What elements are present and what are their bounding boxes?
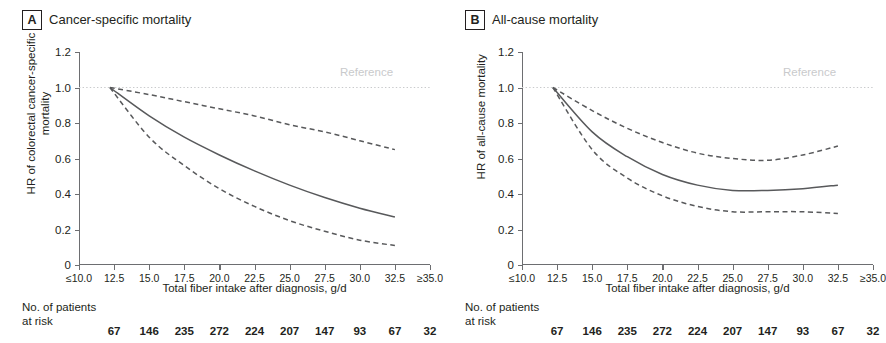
at-risk-value: 93 xyxy=(353,325,366,337)
at-risk-value: 93 xyxy=(796,325,809,337)
y-tick-label: 1.2 xyxy=(498,46,514,58)
x-tick-mark xyxy=(255,265,256,270)
at-risk-value: 147 xyxy=(758,325,777,337)
panel-a-curves xyxy=(79,52,430,265)
y-tick-label: 0.4 xyxy=(55,188,71,200)
x-tick-mark xyxy=(325,265,326,270)
at-risk-value: 67 xyxy=(108,325,121,337)
panel-b-reference-label: Reference xyxy=(783,66,836,78)
x-tick-mark xyxy=(184,265,185,270)
panel-b-risk-values: 67146235272224207147936732 xyxy=(522,325,873,341)
confidence-interval-curve xyxy=(553,88,838,214)
at-risk-value: 32 xyxy=(867,325,880,337)
x-tick-mark xyxy=(557,265,558,270)
x-tick-mark xyxy=(114,265,115,270)
panel-a-plot-area: 00.20.40.60.81.01.2 ≤10.012.515.017.520.… xyxy=(79,52,430,265)
panel-a-y-axis-title: HR of colorectal cancer-specific mortali… xyxy=(25,14,52,214)
y-tick-label: 0.6 xyxy=(55,153,71,165)
panel-a-reference-label: Reference xyxy=(340,66,393,78)
at-risk-value: 67 xyxy=(388,325,401,337)
at-risk-value: 67 xyxy=(551,325,564,337)
x-tick-mark xyxy=(219,265,220,270)
at-risk-value: 146 xyxy=(583,325,602,337)
y-tick-label: 0.2 xyxy=(55,224,71,236)
x-tick-mark xyxy=(803,265,804,270)
y-tick-label: 0.8 xyxy=(498,117,514,129)
hr-curve xyxy=(553,88,838,191)
x-tick-mark xyxy=(662,265,663,270)
panel-a-title: Cancer-specific mortality xyxy=(49,12,191,27)
x-tick-mark xyxy=(627,265,628,270)
panel-a-risk-values: 67146235272224207147936732 xyxy=(79,325,430,341)
x-tick-mark xyxy=(873,265,874,270)
x-tick-mark xyxy=(395,265,396,270)
y-tick-label: 1.0 xyxy=(55,82,71,94)
y-tick-label: 1.2 xyxy=(55,46,71,58)
x-tick-mark xyxy=(360,265,361,270)
panel-a-x-axis-title: Total fiber intake after diagnosis, g/d xyxy=(79,282,430,294)
at-risk-value: 224 xyxy=(688,325,707,337)
at-risk-value: 207 xyxy=(723,325,742,337)
at-risk-value: 67 xyxy=(831,325,844,337)
panel-a: A Cancer-specific mortality HR of colore… xyxy=(0,0,443,343)
y-tick-label: 0 xyxy=(508,259,514,271)
x-tick-mark xyxy=(698,265,699,270)
x-tick-mark xyxy=(838,265,839,270)
panel-b-x-axis-title: Total fiber intake after diagnosis, g/d xyxy=(522,282,873,294)
figure-container: A Cancer-specific mortality HR of colore… xyxy=(0,0,886,343)
x-tick-mark xyxy=(733,265,734,270)
panel-b-title: All-cause mortality xyxy=(492,12,598,27)
at-risk-value: 272 xyxy=(210,325,229,337)
x-tick-mark xyxy=(522,265,523,270)
y-tick-label: 0.8 xyxy=(55,117,71,129)
panel-b-curves xyxy=(522,52,873,265)
x-tick-mark xyxy=(290,265,291,270)
at-risk-value: 32 xyxy=(424,325,437,337)
confidence-interval-curve xyxy=(110,88,395,246)
panel-b-plot-area: 00.20.40.60.81.01.2 ≤10.012.515.017.520.… xyxy=(522,52,873,265)
at-risk-value: 146 xyxy=(140,325,159,337)
at-risk-value: 235 xyxy=(175,325,194,337)
x-tick-mark xyxy=(430,265,431,270)
y-tick-label: 0.2 xyxy=(498,224,514,236)
x-tick-mark xyxy=(768,265,769,270)
y-tick-label: 0 xyxy=(65,259,71,271)
panel-b: B All-cause mortality HR of all-cause mo… xyxy=(443,0,886,343)
panel-b-y-axis-title: HR of all-cause mortality xyxy=(475,17,489,217)
at-risk-value: 235 xyxy=(618,325,637,337)
x-tick-mark xyxy=(79,265,80,270)
confidence-interval-curve xyxy=(553,88,838,161)
hr-curve xyxy=(110,88,395,218)
y-tick-label: 1.0 xyxy=(498,82,514,94)
x-tick-mark xyxy=(592,265,593,270)
y-tick-label: 0.4 xyxy=(498,188,514,200)
at-risk-value: 147 xyxy=(315,325,334,337)
x-tick-mark xyxy=(149,265,150,270)
y-tick-label: 0.6 xyxy=(498,153,514,165)
at-risk-value: 224 xyxy=(245,325,264,337)
at-risk-value: 207 xyxy=(280,325,299,337)
at-risk-value: 272 xyxy=(653,325,672,337)
